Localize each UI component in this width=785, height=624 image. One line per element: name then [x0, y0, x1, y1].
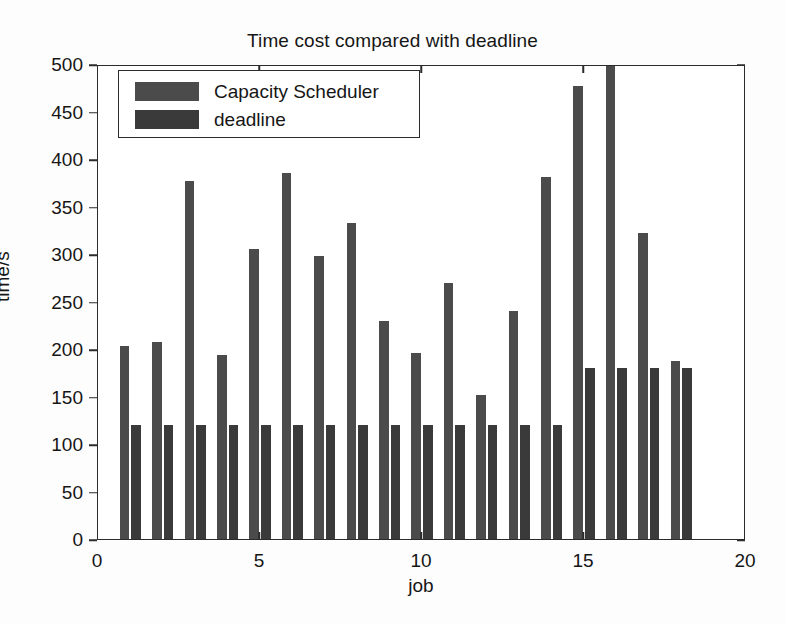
bar [249, 249, 259, 539]
bar [217, 355, 227, 539]
bar [131, 425, 141, 539]
bar [509, 311, 519, 539]
bar [476, 395, 486, 539]
bar [638, 233, 648, 539]
x-tick-mark [582, 532, 584, 540]
y-tick-label: 0 [72, 529, 83, 551]
legend-label: Capacity Scheduler [214, 82, 379, 101]
legend-swatch-icon [135, 82, 199, 101]
legend-label: deadline [214, 110, 286, 129]
bar [120, 346, 130, 539]
bar [411, 353, 421, 539]
y-tick-label: 100 [51, 434, 83, 456]
bar [444, 283, 454, 539]
x-tick-label: 10 [410, 550, 431, 572]
legend-swatch-icon [135, 110, 199, 129]
bar [682, 368, 692, 539]
y-tick-mark [89, 112, 97, 114]
chart-figure: Time cost compared with deadline time/s … [0, 0, 785, 624]
y-tick-label: 150 [51, 387, 83, 409]
bar [326, 425, 336, 539]
bar [347, 223, 357, 539]
bar [423, 425, 433, 539]
x-tick-label: 0 [92, 550, 103, 572]
y-tick-mark [89, 302, 97, 304]
y-tick-mark [89, 254, 97, 256]
bar [293, 425, 303, 539]
y-tick-label: 450 [51, 102, 83, 124]
y-tick-mark [89, 159, 97, 161]
x-tick-mark-top [582, 65, 584, 73]
bar [520, 425, 530, 539]
bar [585, 368, 595, 539]
x-tick-mark [258, 532, 260, 540]
y-tick-label: 350 [51, 197, 83, 219]
bar [185, 181, 195, 539]
bar [573, 86, 583, 539]
y-tick-mark [89, 64, 97, 66]
bar [541, 177, 551, 539]
bar [282, 173, 292, 539]
y-tick-label: 300 [51, 244, 83, 266]
bar [358, 425, 368, 539]
x-tick-label: 5 [254, 550, 265, 572]
bar [229, 425, 239, 539]
bar [314, 256, 324, 539]
x-tick-label: 20 [734, 550, 755, 572]
y-tick-label: 50 [62, 482, 83, 504]
bar [606, 65, 616, 539]
y-axis: 050100150200250300350400450500 [0, 65, 97, 540]
y-tick-mark [89, 444, 97, 446]
chart-legend: Capacity Schedulerdeadline [118, 70, 420, 138]
y-tick-mark [89, 539, 97, 541]
bar [152, 342, 162, 539]
bar [455, 425, 465, 539]
y-tick-label: 500 [51, 54, 83, 76]
y-tick-label: 400 [51, 149, 83, 171]
x-tick-mark [420, 532, 422, 540]
y-tick-mark [89, 397, 97, 399]
bar [164, 425, 174, 539]
x-axis-title: job [97, 575, 745, 597]
legend-entry: deadline [135, 106, 419, 132]
chart-title: Time cost compared with deadline [0, 30, 785, 52]
y-tick-mark [89, 349, 97, 351]
y-tick-mark [89, 207, 97, 209]
y-tick-label: 250 [51, 292, 83, 314]
bar [553, 425, 563, 539]
bar [261, 425, 271, 539]
x-tick-mark-top [420, 65, 422, 73]
x-tick-label: 15 [572, 550, 593, 572]
bar [391, 425, 401, 539]
bar [617, 368, 627, 539]
bar [488, 425, 498, 539]
y-tick-mark [89, 492, 97, 494]
x-axis: 05101520 [97, 540, 745, 580]
bar [379, 321, 389, 540]
bar [196, 425, 206, 539]
bar [650, 368, 660, 539]
legend-entry: Capacity Scheduler [135, 78, 419, 104]
y-tick-label: 200 [51, 339, 83, 361]
bar [671, 361, 681, 539]
